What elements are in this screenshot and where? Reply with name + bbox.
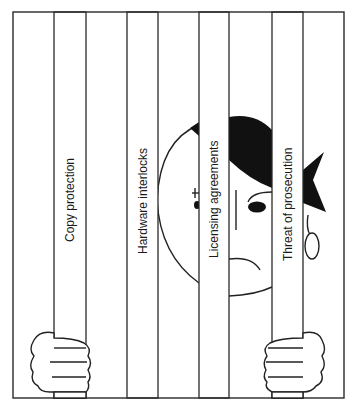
left-hand-icon xyxy=(31,332,91,398)
label-copy-protection: Copy protection xyxy=(63,158,77,242)
label-threat-of-prosecution: Threat of prosecution xyxy=(281,148,295,261)
hair-bow-icon xyxy=(303,152,326,212)
right-eye-icon xyxy=(248,202,266,213)
jail-bars-illustration xyxy=(0,0,355,407)
chin-outline xyxy=(229,287,272,296)
frown-mouth xyxy=(229,258,260,270)
label-hardware-interlocks: Hardware interlocks xyxy=(136,148,150,254)
hair-top-icon xyxy=(229,116,272,188)
right-hand-icon xyxy=(264,332,324,398)
right-eyebrow xyxy=(248,192,272,202)
earring-hook xyxy=(307,215,310,235)
face-outline-left xyxy=(157,125,199,283)
earring-icon xyxy=(305,233,319,259)
hair-left-icon xyxy=(190,122,199,136)
prison-bars xyxy=(54,12,303,398)
label-licensing-agreements: Licensing agreements xyxy=(207,141,221,258)
